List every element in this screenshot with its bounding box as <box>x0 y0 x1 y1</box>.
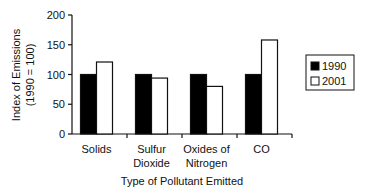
x-category-label: Dioxide <box>133 157 170 169</box>
x-category-label: Sulfur <box>137 143 166 155</box>
y-tick-label: 50 <box>53 98 65 110</box>
bar-co-1990 <box>246 75 262 135</box>
x-axis-title: Type of Pollutant Emitted <box>121 175 243 187</box>
bar-solids-1990 <box>81 75 97 135</box>
bar-chart: Index of Emissions(1990 = 100) 050100150… <box>0 0 365 193</box>
x-category-label: Oxides of <box>183 143 230 155</box>
bar-sulfur-dioxide-1990 <box>136 75 152 135</box>
bar-co-2001 <box>262 40 278 134</box>
legend-label: 2001 <box>322 75 346 87</box>
y-tick-label: 0 <box>59 128 65 140</box>
bar-oxides-of-nitrogen-2001 <box>207 86 223 134</box>
x-axis-category-labels: SolidsSulfurDioxideOxides ofNitrogenCO <box>82 143 271 169</box>
legend-swatch <box>311 77 319 85</box>
x-category-label: CO <box>253 143 270 155</box>
x-category-label: Nitrogen <box>186 157 228 169</box>
y-tick-label: 100 <box>47 69 65 81</box>
bars <box>81 40 278 134</box>
y-axis: 050100150200 <box>47 9 72 140</box>
y-tick-label: 200 <box>47 9 65 21</box>
bar-oxides-of-nitrogen-1990 <box>191 75 207 135</box>
legend-swatch <box>311 62 319 70</box>
x-axis <box>72 134 292 138</box>
y-axis-title-line: Index of Emissions <box>10 28 22 121</box>
y-tick-label: 150 <box>47 39 65 51</box>
bar-sulfur-dioxide-2001 <box>152 78 168 134</box>
x-category-label: Solids <box>82 143 112 155</box>
legend-label: 1990 <box>322 60 346 72</box>
y-axis-title: Index of Emissions(1990 = 100) <box>10 28 36 121</box>
bar-solids-2001 <box>97 62 113 134</box>
legend: 19902001 <box>306 55 354 90</box>
y-axis-title-line: (1990 = 100) <box>24 44 36 107</box>
